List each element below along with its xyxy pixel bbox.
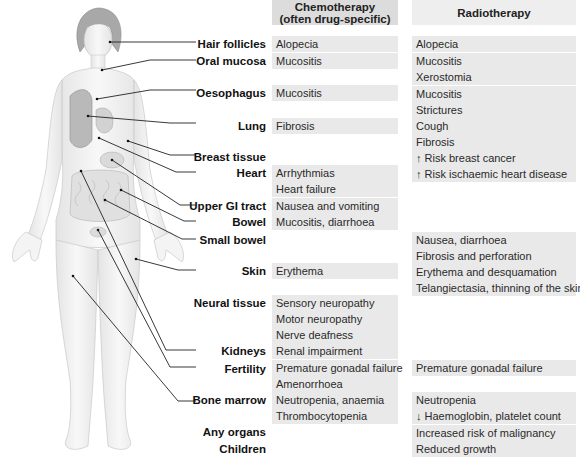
radiotherapy-effect-group: Alopecia (412, 36, 576, 52)
radiotherapy-header: Radiotherapy (412, 0, 576, 25)
effect-item: Motor neuropathy (276, 311, 398, 327)
chemotherapy-effect-group: Nausea and vomiting (272, 198, 398, 214)
chemo-header-line2: (often drug-specific) (279, 13, 390, 25)
organ-label: Small bowel (200, 233, 266, 247)
effect-item: Neutropenia (416, 392, 576, 408)
radiotherapy-effect-group: CoughFibrosis (412, 118, 576, 150)
chemotherapy-effect-group: Neutropenia, anaemiaThrombocytopenia (272, 392, 398, 424)
effect-item: Alopecia (276, 36, 398, 52)
organ-label: Fertility (224, 362, 266, 376)
effect-item: Sensory neuropathy (276, 295, 398, 311)
effect-item: Premature gonadal failure (276, 360, 398, 376)
effect-item: Amenorrhoea (276, 376, 398, 392)
effect-item: Heart failure (276, 181, 398, 197)
effect-item: Erythema and desquamation (416, 264, 576, 280)
effect-item: Arrhythmias (276, 165, 398, 181)
organ-label: Bone marrow (193, 393, 267, 407)
radiotherapy-effect-group: Neutropenia↓ Haemoglobin, platelet count (412, 392, 576, 424)
radiotherapy-effect-group: Premature gonadal failure (412, 360, 576, 376)
intestines-icon (70, 170, 130, 222)
radiotherapy-effect-group: MucositisStrictures (412, 86, 576, 118)
effect-item: Nausea, diarrhoea (416, 232, 576, 248)
organ-label: Bowel (232, 215, 266, 229)
organ-label: Upper GI tract (189, 199, 266, 213)
chemotherapy-effect-group: Mucositis (272, 85, 398, 101)
organ-label: Neural tissue (194, 296, 266, 310)
radiotherapy-effect-group: Increased risk of malignancy (412, 425, 576, 441)
heart-icon (96, 108, 113, 133)
effect-item: Xerostomia (416, 69, 576, 85)
effect-item: Mucositis (276, 85, 398, 101)
effect-item: Neutropenia, anaemia (276, 392, 398, 408)
effect-item: Mucositis (276, 53, 398, 69)
radiotherapy-effect-group: Erythema and desquamationTelangiectasia,… (412, 264, 576, 296)
radiotherapy-effect-group: ↑ Risk breast cancer (412, 150, 576, 166)
chemotherapy-effect-group: Premature gonadal failureAmenorrhoea (272, 360, 398, 392)
chemotherapy-effect-group: Mucositis (272, 53, 398, 69)
organ-label: Kidneys (221, 344, 266, 358)
radiotherapy-effect-group: ↑ Risk ischaemic heart disease (412, 166, 576, 182)
effect-item: Fibrosis (416, 134, 576, 150)
effect-item: ↑ Risk ischaemic heart disease (416, 166, 576, 182)
radiotherapy-effect-group: MucositisXerostomia (412, 53, 576, 85)
effect-item: Fibrosis (276, 118, 398, 134)
organ-label: Lung (238, 119, 266, 133)
chemotherapy-header: Chemotherapy(often drug-specific) (272, 0, 398, 25)
effect-item: Erythema (276, 263, 398, 279)
effect-item: Fibrosis and perforation (416, 248, 576, 264)
effect-item: Alopecia (416, 36, 576, 52)
chemotherapy-effect-group: Erythema (272, 263, 398, 279)
effect-item: Mucositis (416, 53, 576, 69)
effect-item: Mucositis, diarrhoea (276, 214, 398, 230)
effect-item: ↑ Risk breast cancer (416, 150, 576, 166)
effect-item: Nerve deafness (276, 327, 398, 343)
bladder-icon (90, 227, 106, 237)
effect-item: Strictures (416, 102, 576, 118)
organ-label: Skin (242, 264, 266, 278)
effect-item: Nausea and vomiting (276, 198, 398, 214)
chemotherapy-effect-group: Fibrosis (272, 118, 398, 134)
effect-item: Reduced growth (416, 441, 576, 457)
effect-item: ↓ Haemoglobin, platelet count (416, 408, 576, 424)
chemotherapy-effect-group: Mucositis, diarrhoea (272, 214, 398, 230)
effect-item: Premature gonadal failure (416, 360, 576, 376)
lung-icon (70, 90, 92, 148)
effect-item: Cough (416, 118, 576, 134)
radiotherapy-effect-group: Reduced growth (412, 441, 576, 457)
chemotherapy-effect-group: Sensory neuropathyMotor neuropathyNerve … (272, 295, 398, 343)
chemo-header-line1: Chemotherapy (295, 1, 376, 13)
female-body-figure (0, 0, 200, 463)
organ-label: Breast tissue (194, 150, 266, 164)
effect-item: Renal impairment (276, 343, 398, 359)
chemotherapy-effect-group: ArrhythmiasHeart failure (272, 165, 398, 197)
organ-label: Children (219, 442, 266, 456)
organ-label: Oesophagus (196, 86, 266, 100)
organ-label: Heart (237, 166, 266, 180)
chemotherapy-effect-group: Alopecia (272, 36, 398, 52)
organ-label: Oral mucosa (196, 54, 266, 68)
organ-label: Hair follicles (198, 37, 266, 51)
organ-label: Any organs (203, 425, 266, 439)
effect-item: Thrombocytopenia (276, 408, 398, 424)
effect-item: Increased risk of malignancy (416, 425, 576, 441)
effect-item: Telangiectasia, thinning of the skin (416, 280, 576, 296)
effect-item: Mucositis (416, 86, 576, 102)
chemotherapy-effect-group: Renal impairment (272, 343, 398, 359)
radiotherapy-effect-group: Nausea, diarrhoeaFibrosis and perforatio… (412, 232, 576, 264)
